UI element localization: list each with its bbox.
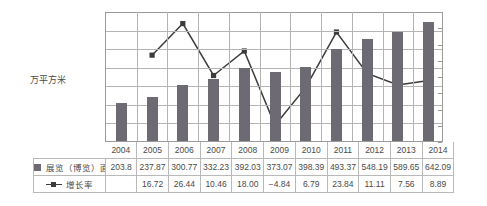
category-separator	[167, 12, 168, 141]
bar	[208, 79, 219, 141]
gridline	[106, 12, 442, 13]
table-row: 增长率16.7226.4410.4618.00−4.846.7923.8411.…	[34, 176, 454, 193]
legend-cell: 展览（博览）面积	[34, 159, 106, 176]
table-year-header: 2004	[106, 142, 137, 159]
y2-axis-tick	[438, 45, 442, 46]
table-cell: −4.84	[264, 176, 296, 193]
data-point-marker	[211, 73, 216, 78]
table-year-header: 2008	[232, 142, 264, 159]
data-table: 2004200520062007200820092010201120122013…	[33, 142, 454, 193]
table-cell: 18.00	[232, 176, 264, 193]
category-separator	[413, 12, 414, 141]
table-cell: 548.19	[359, 159, 391, 176]
table-year-header: 2012	[359, 142, 391, 159]
table-cell: 6.79	[295, 176, 327, 193]
table-cell: 642.09	[422, 159, 454, 176]
table-cell: 373.07	[264, 159, 296, 176]
bar	[392, 32, 403, 142]
category-separator	[352, 12, 353, 141]
legend-label: 展览（博览）面积	[46, 163, 106, 173]
category-separator	[260, 12, 261, 141]
data-point-marker	[149, 53, 154, 58]
bar	[116, 103, 127, 141]
bar	[270, 72, 281, 141]
table-year-header: 2010	[295, 142, 327, 159]
table-row: 展览（博览）面积203.8237.87300.77332.23392.03373…	[34, 159, 454, 176]
y2-axis-tick	[438, 110, 442, 111]
table-cell: 237.87	[137, 159, 169, 176]
table-cell	[106, 176, 137, 193]
table-cell: 203.8	[106, 159, 137, 176]
bar	[239, 68, 250, 141]
category-separator	[383, 12, 384, 141]
category-separator	[229, 12, 230, 141]
table-cell: 332.23	[200, 159, 232, 176]
bar	[147, 97, 158, 141]
table-cell: 398.39	[295, 159, 327, 176]
category-separator	[137, 12, 138, 141]
y2-axis-tick	[438, 61, 442, 62]
category-separator	[321, 12, 322, 141]
table-cell: 7.56	[390, 176, 422, 193]
table-cell: 392.03	[232, 159, 264, 176]
table-cell: 26.44	[168, 176, 200, 193]
bar	[362, 39, 373, 141]
table-year-header: 2014	[422, 142, 454, 159]
data-point-marker	[180, 21, 185, 26]
table-cell: 10.46	[200, 176, 232, 193]
data-table-region: 2004200520062007200820092010201120122013…	[33, 142, 443, 193]
table-cell: 589.65	[390, 159, 422, 176]
y2-axis-tick	[438, 12, 442, 13]
table-year-header: 2007	[200, 142, 232, 159]
table-cell: 23.84	[327, 176, 359, 193]
table-header-row: 2004200520062007200820092010201120122013…	[34, 142, 454, 159]
bar	[331, 49, 342, 141]
table-body: 展览（博览）面积203.8237.87300.77332.23392.03373…	[34, 159, 454, 193]
y2-axis-tick	[438, 28, 442, 29]
y2-axis-tick	[438, 93, 442, 94]
table-cell: 8.89	[422, 176, 454, 193]
category-separator	[290, 12, 291, 141]
y-axis-title: 万平方米	[30, 73, 66, 86]
bar	[300, 67, 311, 141]
legend-bar-swatch-icon	[34, 164, 41, 171]
table-cell: 300.77	[168, 159, 200, 176]
bar	[423, 22, 434, 141]
table-year-header: 2013	[390, 142, 422, 159]
plot-area: 70060050040030020010003025201510 %50−5−1…	[105, 12, 443, 142]
legend-header-cell	[34, 142, 106, 159]
legend-label: 增长率	[66, 180, 93, 190]
bar	[177, 85, 188, 141]
table-cell: 11.11	[359, 176, 391, 193]
table-year-header: 2009	[264, 142, 296, 159]
table-year-header: 2011	[327, 142, 359, 159]
plot-region: 万平方米 70060050040030020010003025201510 %5…	[0, 0, 487, 150]
legend-line-swatch-icon	[46, 181, 62, 188]
table-year-header: 2005	[137, 142, 169, 159]
table-cell: 16.72	[137, 176, 169, 193]
y2-axis-tick	[438, 126, 442, 127]
table-year-header: 2006	[168, 142, 200, 159]
legend-cell: 增长率	[34, 176, 106, 193]
chart-figure: 万平方米 70060050040030020010003025201510 %5…	[0, 0, 487, 206]
table-cell: 493.37	[327, 159, 359, 176]
y2-axis-tick	[438, 77, 442, 78]
category-separator	[198, 12, 199, 141]
